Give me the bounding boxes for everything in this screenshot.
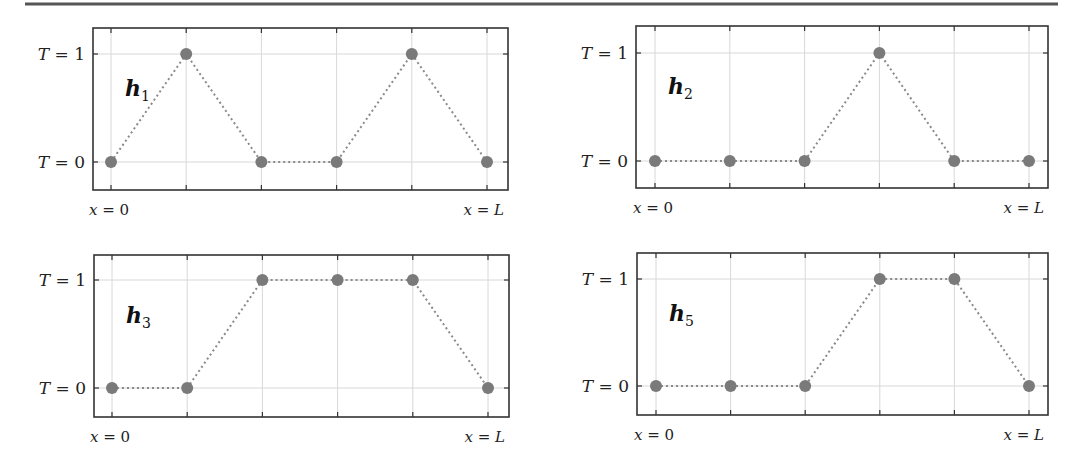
data-point [482,382,494,394]
data-point [799,155,811,167]
data-point [255,156,267,168]
y-label-t0: T = 0 [38,152,85,172]
data-point [725,380,737,392]
data-point [650,380,662,392]
data-point [874,273,886,285]
panel-h2: T = 1T = 0x = 0x = Lh2 [581,26,1048,217]
data-point [948,273,960,285]
data-point [1023,155,1035,167]
data-point [481,156,493,168]
figure-canvas: T = 1T = 0x = 0x = Lh1T = 1T = 0x = 0x =… [0,0,1080,465]
data-point [724,155,736,167]
data-point [332,274,344,286]
data-point [873,47,885,59]
series-line [112,280,488,388]
data-point [331,156,343,168]
data-point [406,48,418,60]
data-point [106,382,118,394]
panel-h1: T = 1T = 0x = 0x = Lh1 [38,28,508,219]
plot-frame [637,253,1048,415]
x-label-right: x = L [1003,199,1044,217]
panel-h3: T = 1T = 0x = 0x = Lh3 [39,255,509,446]
x-label-left: x = 0 [90,428,130,446]
panels-container: T = 1T = 0x = 0x = Lh1T = 1T = 0x = 0x =… [38,26,1048,446]
y-label-t1: T = 1 [581,43,628,63]
data-point [180,48,192,60]
function-name-label: h5 [669,300,694,329]
data-point [799,380,811,392]
y-label-t1: T = 1 [38,44,85,64]
y-label-t1: T = 1 [582,269,629,289]
y-label-t0: T = 0 [582,376,629,396]
x-label-right: x = L [463,201,504,219]
series-line [655,53,1029,161]
plot-frame [93,28,508,190]
data-point [407,274,419,286]
x-label-left: x = 0 [89,201,129,219]
series-line [656,279,1029,386]
function-name-label: h2 [668,73,693,102]
x-label-right: x = L [1003,426,1044,444]
x-label-left: x = 0 [634,426,674,444]
data-point [948,155,960,167]
data-point [256,274,268,286]
x-label-right: x = L [464,428,505,446]
panel-h5: T = 1T = 0x = 0x = Lh5 [582,253,1048,444]
series-line [111,54,487,162]
data-point [1023,380,1035,392]
x-label-left: x = 0 [633,199,673,217]
data-point [181,382,193,394]
y-label-t0: T = 0 [581,151,628,171]
y-label-t0: T = 0 [39,378,86,398]
function-name-label: h3 [126,302,151,331]
data-point [649,155,661,167]
function-name-label: h1 [125,75,150,104]
y-label-t1: T = 1 [39,270,86,290]
data-point [105,156,117,168]
